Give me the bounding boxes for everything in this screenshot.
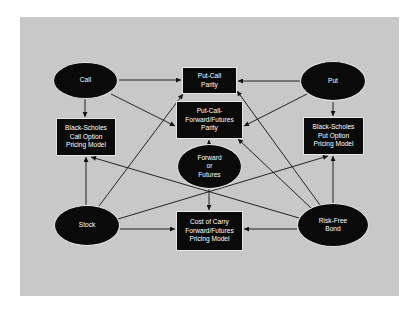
node-bond-label: Risk-Free Bond <box>319 217 348 234</box>
node-put-call-forward-parity: Put-Call- Forward/Futures Parity <box>176 101 243 139</box>
node-stock-label: Stock <box>79 221 96 229</box>
node-pcp-label: Put-Call Parity <box>198 72 221 89</box>
node-cost-of-carry: Cost of Carry Forward/Futures Pricing Mo… <box>176 211 243 251</box>
node-bsput-label: Black-Scholes Put Option Pricing Model <box>313 123 355 148</box>
edge-put-pcfp <box>244 94 307 126</box>
node-forward-futures: Forward or Futures <box>177 144 242 189</box>
node-call: Call <box>53 62 118 99</box>
node-put-label: Put <box>328 77 338 85</box>
node-black-scholes-call: Black-Scholes Call Option Pricing Model <box>56 118 116 156</box>
node-coc-label: Cost of Carry Forward/Futures Pricing Mo… <box>185 218 233 243</box>
edge-bond-pcfp <box>238 139 311 208</box>
edge-call-pcfp <box>111 94 175 126</box>
node-put: Put <box>300 61 366 101</box>
node-risk-free-bond: Risk-Free Bond <box>297 203 369 247</box>
node-call-label: Call <box>80 76 91 84</box>
node-pcfp-label: Put-Call- Forward/Futures Parity <box>185 107 233 132</box>
node-bscall-label: Black-Scholes Call Option Pricing Model <box>65 124 107 149</box>
node-black-scholes-put: Black-Scholes Put Option Pricing Model <box>303 117 364 155</box>
node-put-call-parity: Put-Call Parity <box>182 67 237 94</box>
node-forward-label: Forward or Futures <box>197 154 221 179</box>
node-stock: Stock <box>54 205 120 246</box>
